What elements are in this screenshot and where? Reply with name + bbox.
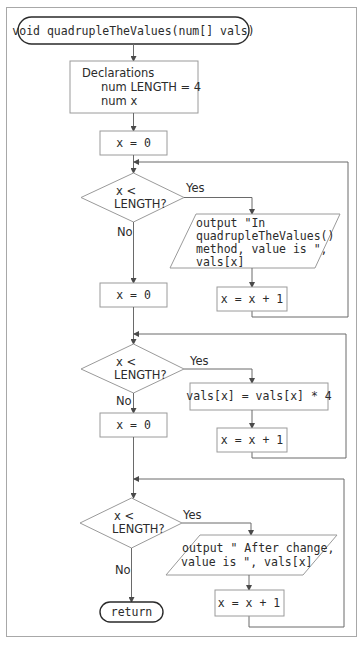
init-x-box-3: x = 0 — [100, 413, 167, 437]
increment-box-3: x = x + 1 — [215, 590, 284, 616]
decision-diamond-1: x < LENGTH? — [81, 173, 184, 222]
decision-line-1: x < — [116, 184, 136, 198]
decision-diamond-3: x < LENGTH? — [80, 498, 182, 548]
init-x-box-1: x = 0 — [100, 131, 167, 155]
start-label: void quadrupleTheValues(num[] vals) — [12, 24, 254, 38]
output-line: value is ", vals[x] — [181, 555, 313, 569]
flowchart: void quadrupleTheValues(num[] vals) Decl… — [0, 0, 364, 647]
decision-line-2: LENGTH? — [114, 368, 167, 382]
init-x-label: x = 0 — [116, 136, 151, 150]
no-label: No — [116, 394, 132, 408]
output-line: output "In — [196, 216, 265, 230]
decision-line-1: x < — [116, 355, 136, 369]
yes-label: Yes — [189, 354, 209, 368]
return-label: return — [111, 605, 153, 619]
output-line: output " After change, — [182, 541, 334, 555]
output-parallelogram-1: output "In quadrupleTheValues() method, … — [170, 214, 340, 269]
return-terminator: return — [100, 602, 163, 622]
increment-box-1: x = x + 1 — [217, 287, 287, 311]
start-terminator: void quadrupleTheValues(num[] vals) — [12, 17, 254, 44]
init-x-label: x = 0 — [116, 288, 151, 302]
increment-label: x = x + 1 — [221, 292, 283, 306]
declarations-box: Declarations num LENGTH = 4 num x — [70, 61, 201, 113]
declaration-line: num LENGTH = 4 — [101, 80, 201, 94]
output-parallelogram-3: output " After change, value is ", vals[… — [166, 535, 337, 575]
init-x-label: x = 0 — [116, 418, 151, 432]
process-label: vals[x] = vals[x] * 4 — [186, 389, 331, 403]
yes-arrow — [182, 523, 251, 535]
declaration-line: num x — [101, 94, 137, 108]
yes-arrow — [184, 198, 252, 215]
no-label: No — [115, 563, 131, 577]
multiply-process-box: vals[x] = vals[x] * 4 — [186, 383, 331, 410]
init-x-box-2: x = 0 — [100, 283, 167, 307]
decision-line-2: LENGTH? — [112, 522, 165, 536]
increment-box-2: x = x + 1 — [217, 428, 287, 452]
yes-arrow — [184, 369, 252, 383]
output-line: quadrupleTheValues() — [196, 229, 334, 243]
output-line: vals[x] — [196, 255, 244, 269]
no-label: No — [117, 225, 133, 239]
declarations-title: Declarations — [82, 66, 154, 80]
output-line: method, value is ", — [196, 242, 328, 256]
yes-label: Yes — [185, 181, 205, 195]
increment-label: x = x + 1 — [221, 433, 283, 447]
increment-label: x = x + 1 — [218, 596, 280, 610]
yes-label: Yes — [182, 508, 202, 522]
decision-line-2: LENGTH? — [114, 197, 167, 211]
decision-line-1: x < — [114, 509, 134, 523]
decision-diamond-2: x < LENGTH? — [81, 344, 184, 393]
